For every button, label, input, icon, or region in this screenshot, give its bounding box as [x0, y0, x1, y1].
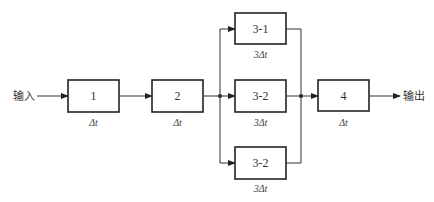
- stage-1-time: Δt: [88, 117, 98, 128]
- stage-2-block: 2 Δt: [152, 80, 203, 128]
- input-label: 输入: [13, 89, 35, 103]
- stage-3-1-block: 3-1 3Δt: [235, 13, 286, 60]
- stage-3-1-time: 3Δt: [253, 49, 268, 60]
- stage-3-2-mid-block: 3-2 3Δt: [235, 80, 286, 128]
- stage-2-label: 2: [175, 89, 181, 103]
- stage-3-2-mid-label: 3-2: [253, 89, 269, 103]
- stage-3-2-bottom-block: 3-2 3Δt: [235, 147, 286, 194]
- stage-1-label: 1: [91, 89, 97, 103]
- stage-4-time: Δt: [338, 117, 348, 128]
- stage-1-block: 1 Δt: [68, 80, 119, 128]
- output-label: 输出: [403, 89, 425, 103]
- stage-3-2-bottom-time: 3Δt: [253, 183, 268, 194]
- stage-3-2-mid-time: 3Δt: [253, 117, 268, 128]
- stage-3-1-label: 3-1: [253, 22, 269, 36]
- stage-4-block: 4 Δt: [318, 80, 369, 128]
- pipeline-diagram: 输入 1 Δt 2 Δt 3-1 3Δt 3-2 3Δt 3-2 3Δt: [0, 0, 434, 202]
- stage-4-label: 4: [341, 89, 347, 103]
- stage-3-2-bottom-label: 3-2: [253, 156, 269, 170]
- stage-2-time: Δt: [172, 117, 182, 128]
